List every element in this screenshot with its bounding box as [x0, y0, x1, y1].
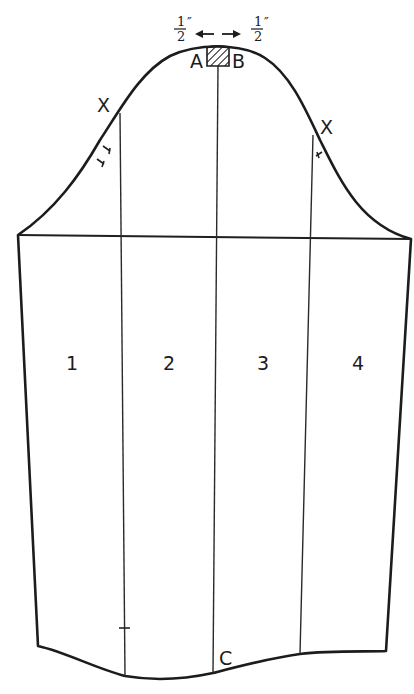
- svg-text:1: 1: [177, 14, 185, 29]
- measurement-right: 1 2 ″: [251, 14, 269, 44]
- svg-text:2: 2: [254, 29, 262, 44]
- point-b-label: B: [232, 50, 245, 72]
- svg-text:″: ″: [187, 15, 192, 30]
- center-grain-line: [213, 66, 218, 673]
- biceps-line: [18, 235, 411, 239]
- point-x-left-label: X: [97, 94, 110, 116]
- sleeve-pattern-diagram: 1 2 ″ 1 2 ″ A B C X X 1 2 3 4: [0, 0, 414, 694]
- section-label-3: 3: [257, 352, 269, 374]
- svg-text:1: 1: [254, 14, 262, 29]
- svg-text:2: 2: [177, 29, 185, 44]
- slash-line-left: [120, 113, 125, 676]
- section-label-4: 4: [352, 352, 364, 374]
- measurement-left: 1 2 ″: [174, 14, 192, 44]
- double-notch-icon: [97, 146, 110, 167]
- point-x-right-label: X: [320, 116, 333, 138]
- section-label-1: 1: [66, 352, 78, 374]
- point-a-label: A: [190, 50, 203, 72]
- single-notch-icon: [316, 152, 322, 158]
- hatched-insert: [207, 46, 229, 66]
- point-c-label: C: [219, 647, 232, 669]
- svg-text:″: ″: [264, 15, 269, 30]
- spread-arrows-icon: [195, 30, 241, 38]
- section-label-2: 2: [163, 352, 175, 374]
- slash-line-right: [300, 135, 313, 654]
